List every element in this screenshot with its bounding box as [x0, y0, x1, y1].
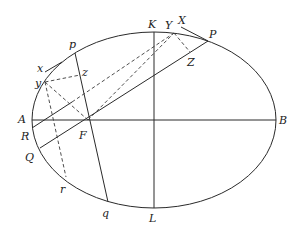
chord-pq: [75, 53, 108, 202]
dashed-y-to-F: [45, 82, 88, 120]
label-A: A: [17, 113, 26, 126]
ellipse-diagram: K L A B F P X Y Z Q R p q x y z r: [0, 0, 300, 235]
label-z: z: [81, 66, 88, 79]
dashed-y-to-z: [45, 75, 80, 82]
label-L: L: [148, 212, 156, 225]
label-y: y: [34, 77, 42, 90]
label-r: r: [60, 183, 66, 196]
label-Z: Z: [186, 56, 195, 69]
dashed-F-to-Y: [88, 33, 174, 120]
label-p: p: [69, 38, 76, 51]
label-x: x: [37, 62, 44, 75]
label-K: K: [147, 18, 157, 31]
tangent-XP: [181, 27, 208, 41]
dashed-y-to-r: [45, 82, 66, 177]
line-R-solid: [32, 102, 72, 128]
label-P: P: [208, 28, 217, 41]
label-q: q: [102, 207, 109, 220]
label-Q: Q: [25, 151, 34, 164]
label-F: F: [78, 129, 87, 142]
chord-QP: [40, 41, 208, 148]
label-X: X: [177, 14, 187, 27]
label-Y: Y: [165, 19, 174, 32]
label-B: B: [278, 114, 287, 127]
label-R: R: [20, 130, 29, 143]
